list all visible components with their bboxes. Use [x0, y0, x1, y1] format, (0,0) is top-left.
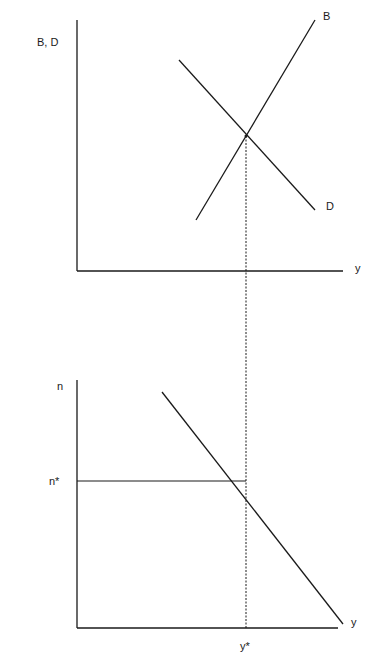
- y-star-label: y*: [240, 641, 250, 652]
- bottom-x-axis-label: y: [351, 617, 357, 628]
- top-panel: [77, 20, 343, 271]
- diagram-canvas: [0, 0, 372, 667]
- bottom-y-axis-label: n: [57, 381, 63, 392]
- economics-diagram: B, D y B D n n* y y*: [0, 0, 372, 667]
- n-star-label: n*: [49, 476, 59, 487]
- top-y-axis-label: B, D: [37, 37, 58, 48]
- labor-demand-line: [162, 392, 343, 624]
- top-x-axis-label: y: [355, 263, 361, 274]
- curve-b-label: B: [323, 11, 330, 22]
- bottom-panel: [77, 380, 343, 628]
- curve-d-label: D: [326, 201, 334, 212]
